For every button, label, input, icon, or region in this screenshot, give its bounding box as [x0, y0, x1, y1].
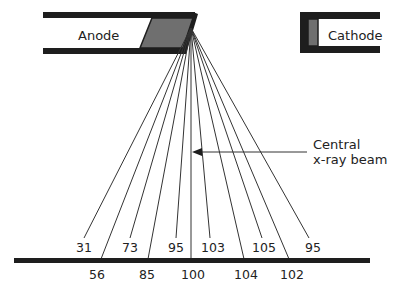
cathode-back-wall: [300, 12, 308, 53]
beam-line: [130, 28, 191, 238]
beam-line: [191, 28, 210, 238]
central-beam-label-line2: x-ray beam: [313, 152, 387, 167]
cathode-top-bar: [300, 12, 380, 19]
anode-label: Anode: [78, 28, 119, 43]
central-beam-callout: Central x-ray beam: [192, 137, 387, 167]
cathode-label: Cathode: [328, 28, 383, 43]
cathode-filament: [308, 19, 318, 46]
beam-line: [191, 28, 309, 238]
beam-line: [101, 28, 191, 259]
beam-line: [191, 28, 244, 259]
intensity-value: 103: [201, 240, 225, 255]
cathode-bottom-bar: [300, 46, 380, 53]
intensity-value: 105: [252, 240, 276, 255]
beam-fan: [84, 28, 309, 259]
intensity-lower-row: 56 85 100 104 102: [89, 267, 304, 282]
heel-effect-diagram: Anode Cathode Central x-ray beam 31 73 9…: [0, 0, 398, 292]
arrow-head-icon: [192, 148, 202, 156]
intensity-value: 95: [168, 240, 184, 255]
anode-bottom-bar: [43, 48, 186, 54]
intensity-value: 73: [122, 240, 138, 255]
beam-line: [191, 28, 289, 259]
intensity-value: 102: [280, 267, 304, 282]
intensity-value: 104: [234, 267, 258, 282]
intensity-value: 31: [76, 240, 92, 255]
beam-line: [84, 28, 191, 238]
beam-line: [148, 28, 191, 259]
intensity-value: 95: [305, 240, 321, 255]
intensity-value: 56: [89, 267, 105, 282]
image-receptor-bar: [14, 258, 370, 263]
central-beam-label-line1: Central: [313, 137, 360, 152]
anode-top-bar: [43, 12, 195, 18]
beam-line: [191, 28, 262, 238]
cathode: Cathode: [300, 12, 383, 53]
intensity-value: 100: [181, 267, 205, 282]
intensity-value: 85: [139, 267, 155, 282]
anode: Anode: [43, 12, 198, 54]
